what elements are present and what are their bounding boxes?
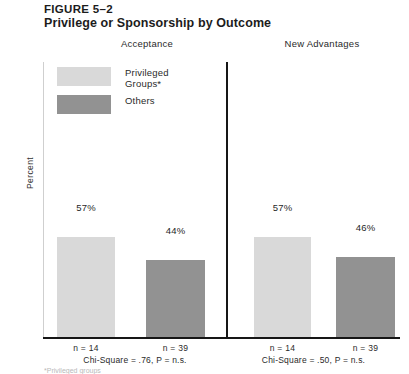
n-label-new-advantages-privileged-groups: n = 14 — [254, 343, 311, 353]
n-label-acceptance-others: n = 39 — [146, 343, 205, 353]
figure-title: Privilege or Sponsorship by Outcome — [44, 16, 384, 31]
legend-item-privileged-groups: Privileged Groups* — [57, 67, 169, 89]
legend-item-others: Others — [57, 95, 169, 114]
n-label-new-advantages-others: n = 39 — [336, 343, 395, 353]
bar-value-new-advantages-privileged-groups: 57% — [254, 202, 311, 213]
panel-heading-acceptance: Acceptance — [92, 38, 202, 49]
figure-number: FIGURE 5–2 — [44, 2, 384, 16]
figure-footnote: *Privileged groups — [44, 367, 101, 374]
legend-swatch-others — [57, 95, 111, 114]
axis-left-edge — [43, 62, 44, 339]
bar-value-new-advantages-others: 46% — [336, 222, 395, 233]
bar-new-advantages-others — [336, 257, 395, 337]
axis-baseline — [43, 337, 400, 339]
bar-new-advantages-privileged-groups — [254, 237, 311, 337]
legend-swatch-privileged-groups — [57, 67, 111, 86]
y-axis-label: Percent — [25, 133, 35, 213]
bar-value-acceptance-others: 44% — [146, 225, 205, 236]
bar-acceptance-privileged-groups — [57, 237, 115, 337]
figure-header: FIGURE 5–2 Privilege or Sponsorship by O… — [44, 2, 384, 31]
panel-divider-axis — [226, 62, 228, 339]
bar-acceptance-others — [146, 260, 205, 337]
legend-label-others: Others — [125, 95, 155, 106]
stat-label-acceptance: Chi-Square = .76, P = n.s. — [43, 355, 227, 365]
n-label-acceptance-privileged-groups: n = 14 — [57, 343, 115, 353]
legend-label-privileged-groups: Privileged Groups* — [125, 67, 169, 89]
chart-legend: Privileged Groups* Others — [57, 67, 169, 120]
bar-value-acceptance-privileged-groups: 57% — [57, 202, 115, 213]
stat-label-new-advantages: Chi-Square = .50, P = n.s. — [227, 355, 400, 365]
panel-heading-new-advantages: New Advantages — [262, 38, 382, 49]
